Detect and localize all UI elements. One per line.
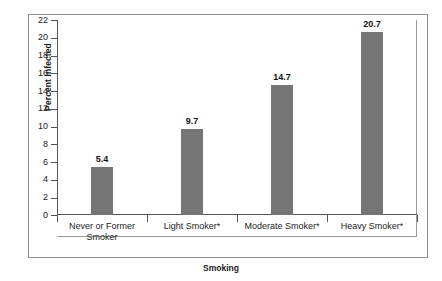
- y-tick-12: 12: [51, 109, 57, 110]
- y-tick-label-14: 14: [38, 86, 48, 96]
- category-label-moderate-smoker: Moderate Smoker*: [235, 221, 329, 232]
- y-tick-6: 6: [51, 162, 57, 163]
- bar-value-label-0: 5.4: [96, 154, 109, 164]
- y-tick-16: 16: [51, 73, 57, 74]
- y-tick-18: 18: [51, 56, 57, 57]
- y-tick-label-18: 18: [38, 50, 48, 60]
- y-tick-label-22: 22: [38, 15, 48, 25]
- category-label-line1: Moderate Smoker*: [235, 221, 329, 232]
- y-tick-14: 14: [51, 91, 57, 92]
- y-tick-2: 2: [51, 198, 57, 199]
- category-label-heavy-smoker: Heavy Smoker*: [327, 221, 417, 232]
- category-label-line2: Smoker: [57, 232, 147, 243]
- bar-heavy-smoker: 20.7: [361, 32, 383, 216]
- bar-value-label-1: 9.7: [186, 116, 199, 126]
- category-label-line1: Light Smoker*: [147, 221, 237, 232]
- y-tick-4: 4: [51, 180, 57, 181]
- y-tick-label-6: 6: [43, 157, 48, 167]
- y-tick-label-0: 0: [43, 210, 48, 220]
- y-tick-label-4: 4: [43, 174, 48, 184]
- category-label-light-smoker: Light Smoker*: [147, 221, 237, 232]
- y-tick-20: 20: [51, 38, 57, 39]
- y-tick-label-2: 2: [43, 192, 48, 202]
- x-axis-title: Smoking: [0, 263, 442, 273]
- bar-value-label-2: 14.7: [273, 72, 291, 82]
- y-tick-label-16: 16: [38, 68, 48, 78]
- bar-never-or-former-smoker: 5.4: [91, 167, 113, 215]
- y-tick-label-10: 10: [38, 121, 48, 131]
- bar-moderate-smoker: 14.7: [271, 85, 293, 215]
- bar-value-label-3: 20.7: [363, 19, 381, 29]
- category-label-line1: Never or Former: [57, 221, 147, 232]
- y-tick-8: 8: [51, 144, 57, 145]
- y-tick-10: 10: [51, 127, 57, 128]
- bar-chart-figure: Percent Infected 22 20 18 16 14 12 10 8 …: [0, 0, 442, 281]
- y-tick-label-8: 8: [43, 139, 48, 149]
- y-tick-label-12: 12: [38, 103, 48, 113]
- category-label-never-or-former-smoker: Never or Former Smoker: [57, 221, 147, 243]
- bar-light-smoker: 9.7: [181, 129, 203, 215]
- y-tick-label-20: 20: [38, 32, 48, 42]
- category-label-line1: Heavy Smoker*: [327, 221, 417, 232]
- x-separator-4: [417, 215, 418, 222]
- y-tick-22: 22: [51, 20, 57, 21]
